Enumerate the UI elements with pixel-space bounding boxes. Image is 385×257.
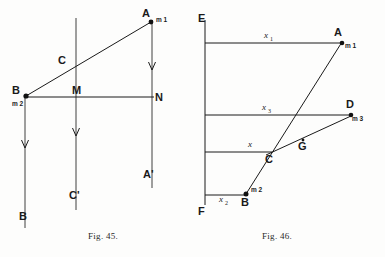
- fig46-sublabel-B-m2: m 2: [251, 186, 263, 193]
- fig45-point-A-dot: [149, 20, 154, 25]
- fig45-label-B-bottom: B: [19, 210, 27, 222]
- fig-45-caption: Fig. 45.: [88, 231, 118, 241]
- fig45-diagonal-BA: [26, 22, 151, 96]
- fig46-distance-x2: x: [218, 194, 223, 204]
- fig46-label-G: G: [298, 140, 307, 152]
- fig46-label-D: D: [346, 98, 354, 110]
- fig46-label-E: E: [198, 12, 205, 24]
- fig46-point-A-dot: [340, 41, 345, 46]
- fig46-distance-x: x: [247, 139, 252, 149]
- fig45-label-A: A: [142, 7, 150, 19]
- fig-45-group: A m 1 B m 2 C M N A' C' B: [12, 7, 168, 228]
- fig-46-group: E A m 1 D m 3 C G B m 2 F x 1 x 3 x x 2: [198, 12, 364, 217]
- fig46-label-A: A: [334, 26, 342, 38]
- fig46-distance-x1: x: [263, 30, 268, 40]
- fig46-label-F: F: [198, 205, 205, 217]
- fig46-distance-x2-sub: 2: [225, 200, 228, 206]
- fig45-sublabel-A-m1: m 1: [156, 16, 168, 23]
- fig46-distance-x3: x: [261, 102, 266, 112]
- fig46-sublabel-A-m1: m 1: [345, 42, 357, 49]
- fig45-label-C-prime: C': [69, 189, 80, 201]
- figures-canvas: A m 1 B m 2 C M N A' C' B: [0, 0, 385, 257]
- fig45-label-N: N: [155, 91, 163, 103]
- fig46-label-B: B: [241, 196, 249, 208]
- fig45-label-B: B: [12, 84, 20, 96]
- fig45-label-A-prime: A': [143, 168, 154, 180]
- fig46-label-C: C: [265, 153, 273, 165]
- fig46-diagonal-BA: [246, 42, 342, 194]
- fig46-distance-x3-sub: 3: [268, 108, 271, 114]
- fig-46-caption: Fig. 46.: [262, 231, 292, 241]
- fig46-diagonal-CD: [266, 116, 351, 155]
- fig46-distance-x1-sub: 1: [270, 36, 273, 42]
- fig46-sublabel-D-m3: m 3: [352, 115, 364, 122]
- fig45-sublabel-B-m2: m 2: [12, 100, 24, 107]
- figure-page: A m 1 B m 2 C M N A' C' B: [0, 0, 385, 257]
- fig45-point-B-dot: [23, 93, 28, 98]
- fig45-label-C: C: [58, 54, 66, 66]
- fig45-label-M: M: [72, 84, 81, 96]
